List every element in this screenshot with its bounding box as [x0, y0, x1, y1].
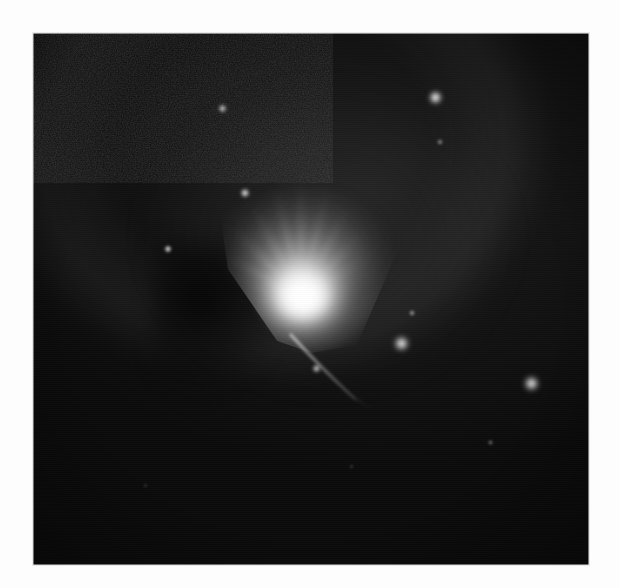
astronomical-plate [33, 33, 589, 565]
scan-ghost-text [320, 9, 600, 24]
sky-background [33, 33, 589, 565]
page-root [0, 0, 620, 588]
